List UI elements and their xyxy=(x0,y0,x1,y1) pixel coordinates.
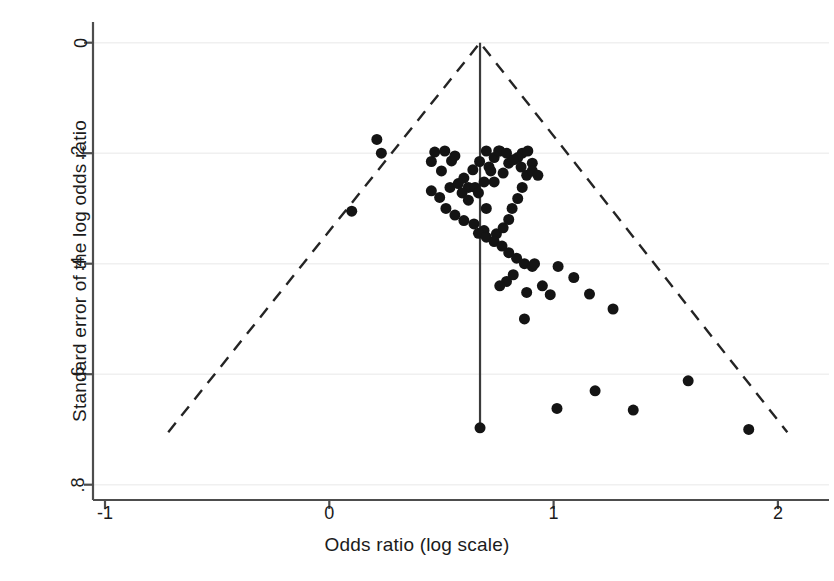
data-point xyxy=(498,168,509,179)
data-point xyxy=(532,170,543,181)
data-point xyxy=(517,182,528,193)
data-point xyxy=(475,422,486,433)
data-point xyxy=(489,176,500,187)
data-point xyxy=(473,187,484,198)
data-point xyxy=(449,150,460,161)
funnel-plot-figure: 0.2.4.6.8 Odds ratio (log scale) Standar… xyxy=(0,0,834,581)
data-point xyxy=(568,272,579,283)
data-point xyxy=(507,203,518,214)
data-point xyxy=(584,289,595,300)
x-tick-label-1: 0 xyxy=(324,503,334,524)
data-point xyxy=(426,156,437,167)
data-point xyxy=(458,215,469,226)
data-point xyxy=(481,203,492,214)
data-point xyxy=(512,193,523,204)
data-point xyxy=(474,156,485,167)
data-point xyxy=(519,313,530,324)
data-point xyxy=(516,162,527,173)
data-point xyxy=(628,405,639,416)
data-point xyxy=(468,218,479,229)
data-point xyxy=(537,280,548,291)
data-point xyxy=(503,214,514,225)
data-point xyxy=(551,403,562,414)
data-point xyxy=(463,195,474,206)
funnel-plot-canvas xyxy=(0,0,834,581)
data-point xyxy=(521,287,532,298)
data-point xyxy=(440,203,451,214)
data-point xyxy=(436,165,447,176)
data-point xyxy=(376,148,387,159)
data-point xyxy=(481,145,492,156)
data-point xyxy=(494,280,505,291)
data-point xyxy=(529,258,540,269)
data-point xyxy=(371,134,382,145)
data-point xyxy=(453,178,464,189)
x-tick-label-0: -1 xyxy=(97,503,113,524)
data-point xyxy=(485,165,496,176)
x-tick-label-2: 1 xyxy=(549,503,559,524)
data-point xyxy=(429,147,440,158)
data-point xyxy=(553,261,564,272)
data-point xyxy=(608,304,619,315)
x-tick-label-3: 2 xyxy=(773,503,783,524)
data-point xyxy=(439,145,450,156)
y-axis-title: Standard error of the log odds ratio xyxy=(69,0,91,551)
data-point xyxy=(434,192,445,203)
data-point xyxy=(479,176,490,187)
data-point xyxy=(522,145,533,156)
data-point xyxy=(743,424,754,435)
x-axis-title: Odds ratio (log scale) xyxy=(0,534,834,556)
data-point xyxy=(346,206,357,217)
data-point xyxy=(545,289,556,300)
data-point xyxy=(683,375,694,386)
data-point xyxy=(590,385,601,396)
